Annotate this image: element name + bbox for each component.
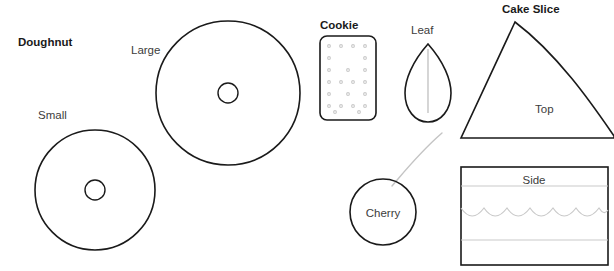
doughnut-large-hole-circle	[218, 83, 238, 103]
doughnut-small-label: Small	[38, 109, 67, 121]
cake-slice-top-wedge-path	[461, 22, 614, 138]
doughnut-large-label: Large	[131, 44, 160, 56]
cake-slice-heading: Cake Slice	[502, 3, 560, 15]
cherry-group: Cherry	[350, 133, 442, 245]
shapes-illustration: Doughnut Large Small Cookie	[0, 0, 614, 271]
cookie-heading: Cookie	[320, 19, 358, 31]
cherry-label: Cherry	[366, 207, 401, 219]
leaf-label: Leaf	[411, 24, 434, 36]
doughnut-large-outer-circle	[156, 21, 300, 165]
cake-slice-group: Cake Slice Top Side	[461, 3, 614, 265]
cake-slice-side-scallop-path	[461, 208, 608, 216]
cookie-chocolate-chips-icon	[328, 45, 367, 114]
cookie-shape[interactable]	[320, 36, 376, 120]
leaf-group: Leaf	[405, 24, 451, 122]
doughnut-large-shape[interactable]	[156, 21, 300, 165]
cookie-group: Cookie	[320, 19, 376, 120]
doughnut-heading: Doughnut	[18, 36, 72, 48]
doughnut-small-shape[interactable]	[35, 130, 155, 250]
cake-slice-side-label: Side	[522, 174, 545, 186]
cake-slice-top-shape[interactable]	[461, 22, 614, 138]
doughnut-small-outer-circle	[35, 130, 155, 250]
doughnut-group: Doughnut Large Small	[18, 21, 300, 250]
cherry-stem-path	[392, 133, 442, 186]
pattern-diagram-canvas: Doughnut Large Small Cookie	[0, 0, 614, 271]
leaf-shape[interactable]	[405, 44, 451, 122]
cake-slice-top-label: Top	[535, 103, 554, 115]
doughnut-small-hole-circle	[85, 180, 105, 200]
